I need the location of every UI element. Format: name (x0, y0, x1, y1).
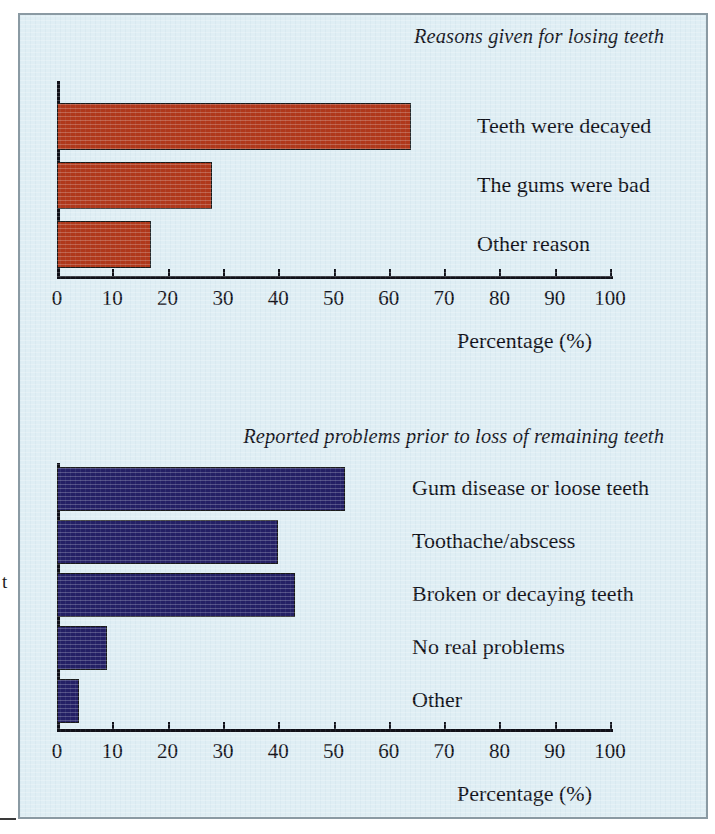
x-axis-tick-label: 10 (102, 739, 123, 764)
x-axis-tick (112, 722, 114, 730)
x-axis-tick-label: 70 (434, 739, 455, 764)
x-axis-caption: Percentage (%) (457, 781, 592, 807)
x-axis-tick-label: 40 (268, 739, 289, 764)
x-axis-tick-label: 100 (594, 739, 626, 764)
bar (57, 103, 411, 150)
x-axis-tick (555, 269, 557, 277)
x-axis-tick (334, 269, 336, 277)
x-axis-tick-label: 70 (434, 286, 455, 311)
page-bleed-margin (0, 0, 18, 834)
bar (57, 162, 212, 209)
bar (57, 573, 295, 617)
chart-reasons-given-for-losing-teeth: Reasons given for losing teeth Teeth wer… (20, 25, 710, 375)
bar-category-label: Other (412, 687, 462, 713)
x-axis-tick-label: 80 (489, 286, 510, 311)
chart-title: Reported problems prior to loss of remai… (243, 425, 664, 448)
x-axis-tick (499, 722, 501, 730)
x-axis-tick-label: 20 (157, 739, 178, 764)
x-axis-tick-label: 50 (323, 286, 344, 311)
x-axis-tick (278, 722, 280, 730)
x-axis-tick (444, 269, 446, 277)
x-axis-tick-label: 10 (102, 286, 123, 311)
bar (57, 520, 278, 564)
x-axis-tick-label: 60 (378, 739, 399, 764)
bar-category-label: Gum disease or loose teeth (412, 475, 649, 501)
x-axis-tick-label: 100 (594, 286, 626, 311)
figure-panel: Reasons given for losing teeth Teeth wer… (18, 13, 708, 819)
bar-category-label: Toothache/abscess (412, 528, 575, 554)
x-axis-tick (168, 722, 170, 730)
x-axis-tick-label: 50 (323, 739, 344, 764)
x-axis-tick (168, 269, 170, 277)
x-axis-tick (610, 269, 612, 277)
x-axis-tick-label: 30 (212, 286, 233, 311)
bar (57, 221, 151, 268)
x-axis-tick-label: 60 (378, 286, 399, 311)
bar-category-label: No real problems (412, 634, 565, 660)
x-axis-tick-label: 90 (544, 739, 565, 764)
bar-category-label: Teeth were decayed (477, 113, 651, 139)
x-axis-tick-label: 90 (544, 286, 565, 311)
x-axis-tick (223, 269, 225, 277)
x-axis-tick (389, 722, 391, 730)
chart-title: Reasons given for losing teeth (414, 25, 664, 48)
x-axis-tick (389, 269, 391, 277)
x-axis-tick (555, 722, 557, 730)
x-axis-tick-label: 80 (489, 739, 510, 764)
x-axis-tick-label: 30 (212, 739, 233, 764)
bar (57, 626, 107, 670)
x-axis-tick (278, 269, 280, 277)
x-axis-tick (334, 722, 336, 730)
page-bleed-rule (0, 818, 16, 820)
x-axis-tick (112, 269, 114, 277)
x-axis-tick-label: 40 (268, 286, 289, 311)
bar-category-label: The gums were bad (477, 172, 650, 198)
bar-category-label: Broken or decaying teeth (412, 581, 634, 607)
x-axis-tick-label: 0 (52, 739, 63, 764)
x-axis-tick-label: 0 (52, 286, 63, 311)
bar (57, 467, 345, 511)
x-axis-tick (499, 269, 501, 277)
chart-reported-problems-prior-to-loss: Reported problems prior to loss of remai… (20, 425, 710, 815)
x-axis-tick (223, 722, 225, 730)
x-axis-tick (610, 722, 612, 730)
x-axis-caption: Percentage (%) (457, 328, 592, 354)
bar-category-label: Other reason (477, 231, 590, 257)
bar (57, 679, 79, 723)
page-bleed-glyph: t (2, 572, 7, 591)
x-axis-tick (444, 722, 446, 730)
x-axis-tick-label: 20 (157, 286, 178, 311)
